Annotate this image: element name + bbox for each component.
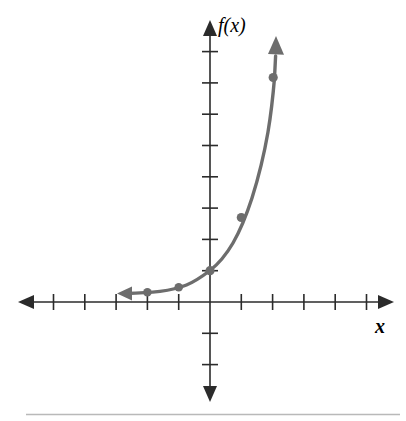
x-axis-right-arrow-icon bbox=[378, 295, 394, 309]
curve-up-arrow-icon bbox=[268, 36, 284, 55]
graph-figure: f(x) x bbox=[0, 0, 406, 421]
data-point bbox=[143, 288, 152, 297]
function-curve-group bbox=[117, 36, 284, 301]
data-point bbox=[205, 266, 214, 275]
data-point bbox=[237, 213, 246, 222]
y-axis-group bbox=[202, 20, 218, 402]
data-point bbox=[174, 283, 183, 292]
y-axis-up-arrow-icon bbox=[203, 20, 217, 36]
exponential-curve bbox=[126, 56, 276, 294]
coordinate-plane-svg bbox=[0, 0, 406, 421]
y-axis-down-arrow-icon bbox=[203, 386, 217, 402]
y-axis-label-wrap: f(x) bbox=[218, 14, 246, 37]
x-axis-label-wrap: x bbox=[375, 315, 385, 338]
x-axis-group bbox=[18, 294, 394, 310]
x-axis-left-arrow-icon bbox=[18, 295, 34, 309]
y-axis-label: f(x) bbox=[218, 14, 246, 36]
curve-left-arrow-icon bbox=[117, 287, 132, 301]
x-axis-label: x bbox=[375, 315, 385, 337]
data-point bbox=[269, 73, 278, 82]
